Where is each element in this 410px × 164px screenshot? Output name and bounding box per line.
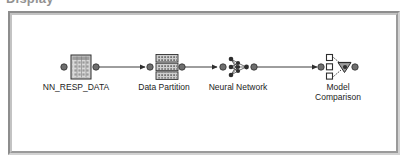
node-label-nn-resp-data: NN_RESP_DATA	[20, 83, 132, 93]
process-flow-frame: NN_RESP_DATA Data Partition Neural Netwo…	[8, 11, 400, 155]
node-neural-network[interactable]	[218, 55, 258, 81]
node-nn-resp-data[interactable]	[60, 55, 100, 81]
clipped-caption-text: Display	[6, 0, 54, 6]
screenshot-root: Display	[0, 0, 410, 164]
connector-2[interactable]	[186, 63, 220, 72]
node-label-neural-network: Neural Network	[190, 83, 286, 93]
node-data-partition[interactable]	[146, 55, 186, 81]
node-model-comparison[interactable]	[316, 53, 360, 83]
node-label-model-comparison: Model Comparison	[298, 83, 378, 102]
connector-1[interactable]	[100, 63, 148, 72]
process-flow-canvas[interactable]: NN_RESP_DATA Data Partition Neural Netwo…	[14, 17, 394, 149]
connector-3[interactable]	[258, 63, 318, 72]
